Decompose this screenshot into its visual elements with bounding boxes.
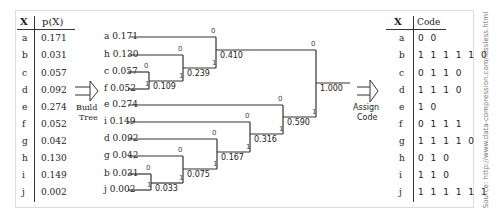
col-header-code: Code (417, 17, 440, 27)
row-x: e (399, 102, 404, 112)
row-code: 1 0 (418, 102, 438, 112)
row-x: i (399, 170, 402, 180)
row-x: g (399, 136, 405, 146)
row-x: h (399, 153, 405, 163)
row-code: 0 1 1 0 (418, 68, 464, 78)
assign-label: Assign (353, 103, 379, 112)
row-code: 1 1 1 1 0 (418, 136, 476, 146)
row-x: d (399, 85, 405, 95)
row-code: 1 1 1 1 1 0 (418, 50, 489, 60)
code-label: Code (357, 113, 377, 122)
row-code: 1 1 0 (418, 170, 451, 180)
row-x: b (399, 50, 405, 60)
header-underline (386, 29, 446, 30)
row-x: c (399, 68, 404, 78)
row-code: 0 0 (418, 33, 438, 43)
row-x: a (399, 33, 404, 43)
row-code: 0 1 1 1 (418, 119, 464, 129)
row-code: 0 1 0 (418, 153, 451, 163)
row-code: 1 1 1 1 1 1 (418, 187, 489, 197)
row-x: f (399, 119, 402, 129)
row-x: j (399, 187, 402, 197)
column-divider (413, 16, 414, 202)
source-caption: Source: http://www.data-compression.com/… (482, 12, 490, 208)
row-code: 1 1 1 0 (418, 85, 464, 95)
col-header-x: X (394, 16, 402, 27)
